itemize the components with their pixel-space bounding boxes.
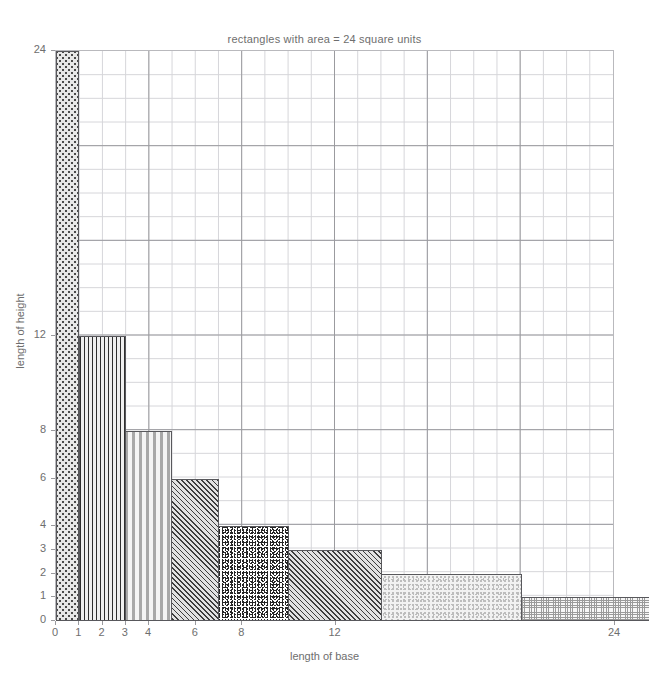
x-tick-mark-1 (78, 621, 79, 625)
y-tick-label-4: 4 (16, 518, 46, 530)
x-tick-label-8: 8 (226, 626, 256, 638)
rectangle-1x24 (56, 51, 79, 621)
y-tick-mark-3 (51, 549, 55, 550)
y-tick-mark-6 (51, 478, 55, 479)
y-tick-mark-1 (51, 596, 55, 597)
y-tick-mark-2 (51, 573, 55, 574)
x-tick-mark-24 (614, 621, 615, 625)
x-tick-mark-8 (241, 621, 242, 625)
x-tick-mark-2 (102, 621, 103, 625)
y-tick-label-24: 24 (16, 43, 46, 55)
y-tick-label-1: 1 (16, 589, 46, 601)
y-tick-label-2: 2 (16, 566, 46, 578)
y-axis-title: length of height (14, 271, 26, 391)
y-tick-mark-8 (51, 430, 55, 431)
y-tick-label-6: 6 (16, 471, 46, 483)
x-tick-mark-3 (125, 621, 126, 625)
y-tick-label-8: 8 (16, 423, 46, 435)
y-tick-mark-12 (51, 335, 55, 336)
x-tick-mark-0 (55, 621, 56, 625)
plot-area (55, 50, 614, 620)
chart-container: rectangles with area = 24 square units 0… (0, 0, 649, 692)
x-tick-mark-6 (195, 621, 196, 625)
x-tick-mark-4 (148, 621, 149, 625)
y-tick-label-3: 3 (16, 542, 46, 554)
x-axis-title: length of base (0, 650, 649, 662)
chart-title: rectangles with area = 24 square units (0, 33, 649, 45)
x-tick-mark-12 (335, 621, 336, 625)
y-tick-mark-4 (51, 525, 55, 526)
y-tick-label-0: 0 (16, 613, 46, 625)
x-tick-label-4: 4 (133, 626, 163, 638)
rectangles-layer (56, 51, 613, 619)
rectangle-2x12 (79, 336, 126, 621)
x-tick-label-24: 24 (599, 626, 629, 638)
x-tick-label-12: 12 (320, 626, 350, 638)
y-tick-mark-24 (51, 50, 55, 51)
x-tick-label-6: 6 (180, 626, 210, 638)
